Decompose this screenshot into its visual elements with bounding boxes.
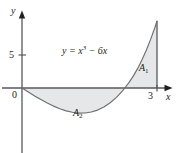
curve-equation-label: y = x3 − 6x	[62, 46, 107, 56]
equation-head: y = x	[62, 45, 83, 56]
equation-tail: − 6x	[89, 45, 108, 56]
region-label-a1: A1	[139, 63, 149, 73]
equation-exponent: 3	[83, 44, 87, 52]
region-label-a2: A2	[73, 108, 83, 118]
region-a1-subscript: 1	[145, 67, 149, 75]
x-tick-label-3: 3	[148, 91, 153, 101]
y-axis-arrowhead	[19, 11, 25, 19]
region-a2-subscript: 2	[79, 112, 83, 120]
integral-area-figure: y x 5 0 3 y = x3 − 6x A1 A2	[0, 0, 178, 153]
plot-svg	[0, 0, 178, 153]
shaded-region-a1	[125, 21, 157, 88]
axis-label-x: x	[166, 92, 170, 102]
origin-label: 0	[12, 90, 17, 100]
y-tick-label-5: 5	[9, 50, 14, 60]
axis-label-y: y	[11, 6, 15, 16]
